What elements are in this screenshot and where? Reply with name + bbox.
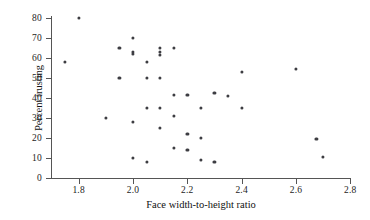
y-tick-label: 60 <box>32 53 42 63</box>
y-tick-label: 70 <box>32 33 42 43</box>
data-point <box>145 61 148 64</box>
data-point <box>213 92 216 95</box>
data-point <box>145 77 148 80</box>
y-tick <box>46 158 51 159</box>
data-point <box>199 137 202 140</box>
data-point <box>172 47 175 50</box>
y-tick <box>46 18 51 19</box>
data-point <box>199 107 202 110</box>
data-point <box>131 37 134 40</box>
data-point <box>240 107 243 110</box>
data-point <box>213 161 216 164</box>
data-point <box>294 68 297 71</box>
x-tick-label: 2.8 <box>344 185 356 195</box>
y-tick-label: 0 <box>37 173 42 183</box>
y-tick <box>46 178 51 179</box>
data-point <box>159 77 162 80</box>
y-axis-line <box>51 16 52 179</box>
y-tick <box>46 118 51 119</box>
x-tick-label: 1.8 <box>72 185 84 195</box>
y-tick <box>46 38 51 39</box>
data-point <box>131 53 134 56</box>
data-point <box>172 147 175 150</box>
data-point <box>145 161 148 164</box>
data-point <box>159 54 162 57</box>
x-tick-label: 2.6 <box>290 185 302 195</box>
data-point <box>172 115 175 118</box>
data-point <box>199 159 202 162</box>
x-tick <box>79 179 80 184</box>
data-point <box>118 47 121 50</box>
data-point <box>145 107 148 110</box>
data-point <box>172 94 175 97</box>
y-tick-label: 80 <box>32 13 42 23</box>
x-tick-label: 2.4 <box>235 185 247 195</box>
x-tick-label: 2.2 <box>181 185 193 195</box>
data-point <box>186 94 189 97</box>
x-tick <box>133 179 134 184</box>
data-point <box>118 77 121 80</box>
y-tick-label: 20 <box>32 133 42 143</box>
x-tick <box>350 179 351 184</box>
data-point <box>131 157 134 160</box>
x-tick-label: 2.0 <box>127 185 139 195</box>
data-point <box>315 138 318 141</box>
y-tick <box>46 98 51 99</box>
y-tick <box>46 58 51 59</box>
data-point <box>63 61 66 64</box>
data-point <box>186 149 189 152</box>
data-point <box>240 71 243 74</box>
x-axis-label: Face width-to-height ratio <box>146 199 256 210</box>
x-tick <box>242 179 243 184</box>
data-point <box>159 127 162 130</box>
y-tick-label: 10 <box>32 153 42 163</box>
x-axis-line <box>51 178 351 179</box>
y-tick <box>46 138 51 139</box>
plot-area: 1.82.02.22.42.62.8 01020304050607080 Fac… <box>0 0 370 220</box>
y-tick <box>46 78 51 79</box>
data-point <box>226 95 229 98</box>
data-point <box>159 47 162 50</box>
data-point <box>159 107 162 110</box>
data-point <box>104 117 107 120</box>
data-point <box>77 17 80 20</box>
x-tick <box>296 179 297 184</box>
data-point <box>322 156 325 159</box>
x-tick <box>187 179 188 184</box>
y-axis-label: Percent trusting <box>33 65 44 131</box>
data-point <box>131 121 134 124</box>
scatter-plot-figure: 1.82.02.22.42.62.8 01020304050607080 Fac… <box>0 0 370 220</box>
data-point <box>186 133 189 136</box>
